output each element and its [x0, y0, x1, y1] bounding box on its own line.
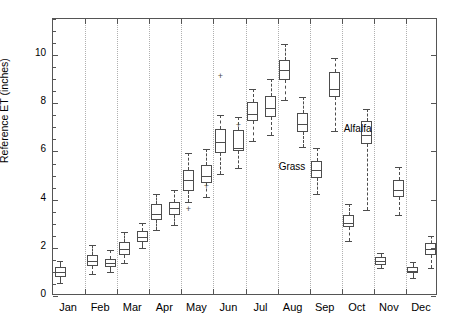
- whisker-upper: [431, 236, 432, 243]
- y-tick-label-4: 4: [30, 192, 46, 203]
- chart-root: Reference ET (inches) 0246810 JanFebMarA…: [0, 0, 454, 326]
- plot-area: ++++ AlfalfaGrass: [52, 18, 437, 295]
- y-tick-0-right: [431, 296, 436, 297]
- annotation-grass: Grass: [279, 161, 306, 172]
- whisker-cap-lower: [428, 268, 435, 269]
- y-tick-label-2: 2: [30, 240, 46, 251]
- boxplot-alfalfa-dec: [53, 19, 436, 294]
- whisker-cap-upper: [428, 236, 435, 237]
- annotation-alfalfa: Alfalfa: [344, 123, 372, 134]
- x-tick-label-dec: Dec: [401, 301, 441, 313]
- whisker-lower: [431, 255, 432, 268]
- y-tick-label-8: 8: [30, 95, 46, 106]
- y-tick-label-0: 0: [30, 288, 46, 299]
- y-tick-0: [53, 296, 58, 297]
- y-tick-label-6: 6: [30, 143, 46, 154]
- y-axis-title: Reference ET (inches): [0, 58, 10, 163]
- y-tick-label-10: 10: [30, 47, 46, 58]
- median-line: [425, 249, 436, 250]
